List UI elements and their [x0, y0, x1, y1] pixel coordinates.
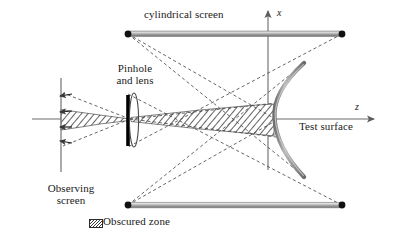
observing-label-line1: Observing	[48, 182, 95, 194]
pinhole-and-lens-label: Pinhole and lens	[104, 62, 166, 87]
cylindrical-screen-label: cylindrical screen	[144, 8, 224, 20]
test-surface-label: Test surface	[299, 120, 353, 132]
pinhole-label-line1: Pinhole	[118, 62, 152, 74]
observing-screen-label: Observing screen	[40, 182, 102, 207]
screen-endpoint-dot-top-left	[125, 31, 132, 38]
obscured-zone-legend-swatch	[89, 219, 103, 228]
screen-endpoint-dot-bottom-left	[125, 202, 132, 209]
ray-top-left-to-surface-bottom	[128, 34, 306, 178]
screen-endpoint-dot-bottom-right	[339, 202, 346, 209]
x-axis-label: x	[277, 7, 282, 18]
obscured-zone-legend-label: Obscured zone	[103, 215, 170, 227]
cylindrical-screen-top-bar	[128, 31, 342, 36]
obscured-zone-shapes	[61, 104, 274, 136]
optical-diagram-figure: cylindrical screen Pinhole and lens Obse…	[0, 0, 393, 239]
cylindrical-screen-bottom-bar	[128, 202, 342, 207]
observing-label-line2: screen	[57, 194, 86, 206]
observing-arrow-4	[60, 141, 72, 143]
pinhole-label-line2: and lens	[116, 74, 153, 86]
obscured-zone-right-wedge	[131, 104, 274, 136]
screen-endpoint-dot-top-right	[339, 31, 346, 38]
z-axis-label: z	[355, 101, 359, 112]
